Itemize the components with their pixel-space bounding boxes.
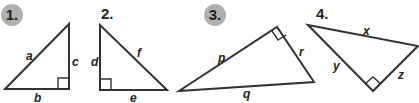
side-r-label: r [299,45,305,59]
triangle-4: x y z [308,24,418,91]
side-q-label: q [243,87,251,101]
side-b-label: b [34,91,41,103]
triangle-1: a b c [5,24,79,103]
side-f-label: f [137,46,142,60]
triangles-diagram: a b c d e f p q r x y z [0,0,419,103]
side-z-label: z [397,68,404,82]
side-a-label: a [26,49,33,63]
triangle-2: d e f [91,25,167,103]
side-d-label: d [91,55,99,69]
side-c-label: c [72,55,79,69]
side-x-label: x [362,24,371,38]
side-e-label: e [130,91,137,103]
side-p-label: p [217,51,225,65]
side-y-label: y [332,59,341,73]
triangle-3: p q r [179,27,314,101]
